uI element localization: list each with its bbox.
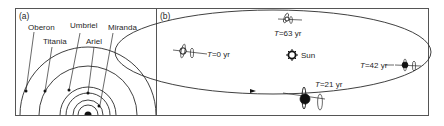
label-t0: T=0 yr (207, 50, 230, 59)
label-ariel: Ariel (86, 37, 102, 46)
uranus-t63 (278, 13, 302, 24)
label-t21: T=21 yr (315, 80, 343, 89)
sun-label: Sun (301, 51, 315, 60)
uranus-t21 (283, 87, 325, 110)
leader-umbriel (69, 33, 80, 90)
panel-a: (a) Oberon Titania U (19, 11, 156, 115)
orbit-direction-arrow (250, 89, 256, 93)
leader-titania (45, 47, 52, 91)
panel-b-label: (b) (160, 11, 171, 21)
leader-ariel (88, 47, 94, 93)
label-t63: T=63 yr (274, 29, 302, 38)
label-umbriel: Umbriel (70, 21, 98, 30)
uranus-t0 (173, 44, 207, 58)
uranus-orbit (115, 10, 431, 94)
panel-b: (b) Sun T=0 yr (115, 10, 431, 110)
uranus-diagram: (a) Oberon Titania U (0, 0, 444, 126)
leader-oberon (26, 32, 34, 91)
uranus-planet (85, 112, 92, 116)
label-titania: Titania (43, 37, 67, 46)
panel-a-label: (a) (19, 11, 30, 21)
label-oberon: Oberon (28, 23, 55, 32)
sun-icon (286, 49, 298, 61)
label-t42: T=42 yr (360, 61, 388, 70)
label-miranda: Miranda (108, 23, 137, 32)
